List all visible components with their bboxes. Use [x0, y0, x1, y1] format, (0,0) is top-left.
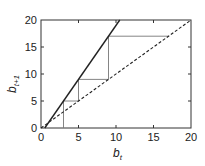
y-tick-labels: 0 5 10 15 20 — [25, 14, 37, 134]
x-tick-5: 5 — [75, 131, 81, 143]
y-tick-15: 15 — [25, 41, 37, 53]
x-tick-labels: 0 5 10 15 20 — [38, 131, 197, 143]
x-tick-10: 10 — [110, 131, 122, 143]
cobweb-chart: 0 5 10 15 20 0 5 10 15 20 bt bt+1 — [0, 0, 205, 166]
cobweb-path — [64, 36, 169, 128]
x-tick-15: 15 — [147, 131, 159, 143]
y-tick-0: 0 — [31, 122, 37, 134]
y-tick-5: 5 — [31, 95, 37, 107]
x-axis-label: bt — [113, 146, 123, 162]
x-tick-0: 0 — [38, 131, 44, 143]
y-tick-10: 10 — [25, 68, 37, 80]
y-axis-label: bt+1 — [5, 75, 21, 93]
x-tick-20: 20 — [185, 131, 197, 143]
y-tick-20: 20 — [25, 14, 37, 26]
